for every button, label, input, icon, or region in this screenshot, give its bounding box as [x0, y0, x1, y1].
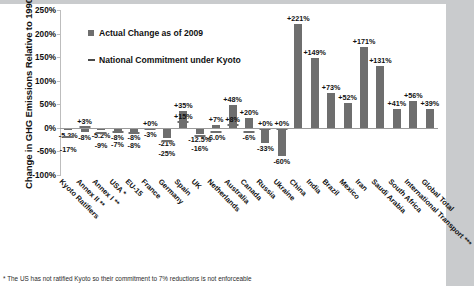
y-axis-tick-label: 0% — [16, 123, 56, 132]
x-axis-labels: Kyoto RatifiersAnnex II **Annex I **USA … — [60, 177, 438, 265]
bar-actual[interactable] — [245, 118, 253, 127]
bar-group[interactable]: +131% — [372, 10, 388, 175]
y-axis-tick-label: 50% — [16, 100, 56, 109]
bar-actual[interactable] — [261, 128, 269, 144]
bar-value-label: +48% — [223, 95, 242, 104]
y-axis-tick-mark — [57, 10, 61, 11]
bar-value-label: +52% — [338, 93, 357, 102]
commitment-marker[interactable] — [112, 131, 123, 133]
bar-group[interactable]: +39% — [422, 10, 438, 175]
commitment-value-label: +15% — [174, 112, 193, 121]
legend-label-actual: Actual Change as of 2009 — [99, 28, 203, 38]
commitment-marker[interactable] — [96, 132, 107, 134]
bar-actual[interactable] — [311, 58, 319, 128]
bar-group[interactable]: +52% — [339, 10, 355, 175]
commitment-value-label: -25% — [158, 149, 175, 158]
commitment-value-label: +0% — [258, 119, 273, 128]
bar-actual[interactable] — [294, 24, 302, 128]
bar-actual[interactable] — [409, 101, 417, 127]
commitment-value-label: +0% — [275, 119, 290, 128]
square-marker-icon — [88, 30, 94, 36]
bar-group[interactable]: +41% — [389, 10, 405, 175]
bar-value-label: -33% — [257, 144, 274, 153]
bar-group[interactable]: +149% — [307, 10, 323, 175]
y-axis-tick-label: -50% — [16, 147, 56, 156]
bar-actual[interactable] — [376, 66, 384, 128]
dash-marker-icon — [88, 59, 95, 61]
y-axis-tick-label: 200% — [16, 29, 56, 38]
bar-value-label: +73% — [322, 83, 341, 92]
zero-baseline — [60, 128, 438, 129]
commitment-value-label: -6.0% — [207, 133, 226, 142]
chart-legend: Actual Change as of 2009 National Commit… — [88, 28, 241, 82]
bar-group[interactable]: +73% — [323, 10, 339, 175]
bar-actual[interactable] — [426, 109, 434, 127]
bar-value-label: +35% — [174, 101, 193, 110]
bar-group[interactable]: +56% — [405, 10, 421, 175]
commitment-marker[interactable] — [178, 121, 189, 123]
y-axis-tick-label: -100% — [16, 171, 56, 180]
commitment-value-label: +8% — [225, 115, 240, 124]
commitment-value-label: -16% — [191, 144, 208, 153]
bar-value-label: +20% — [240, 108, 259, 117]
x-axis-tick-label: Brazil — [321, 177, 342, 198]
bar-actual[interactable] — [278, 128, 286, 156]
y-axis-tick-label: 100% — [16, 76, 56, 85]
bar-group[interactable]: +171% — [356, 10, 372, 175]
bar-actual[interactable] — [344, 103, 352, 128]
commitment-value-label: -6% — [243, 133, 256, 142]
legend-item-commitment: National Commitment under Kyoto — [88, 55, 241, 65]
bar-value-label: -8% — [78, 133, 91, 142]
y-axis-tick-mark — [57, 175, 61, 176]
bar-group[interactable]: -5.2%-17% — [60, 10, 76, 175]
bar-group[interactable]: +221% — [290, 10, 306, 175]
bar-value-label: +7% — [209, 115, 224, 124]
y-axis-tick-mark — [57, 57, 61, 58]
y-axis-tick-mark — [57, 34, 61, 35]
bar-actual[interactable] — [327, 93, 335, 127]
commitment-marker[interactable] — [128, 132, 139, 134]
legend-item-actual: Actual Change as of 2009 — [88, 28, 241, 38]
y-axis-tick-mark — [57, 104, 61, 105]
commitment-value-label: -8% — [128, 141, 141, 150]
commitment-value-label: -17% — [60, 145, 77, 154]
commitment-marker[interactable] — [194, 135, 205, 137]
commitment-marker[interactable] — [161, 140, 172, 142]
commitment-value-label: +0% — [143, 119, 158, 128]
bar-group[interactable]: -60%+0% — [274, 10, 290, 175]
commitment-value-label: +3% — [77, 117, 92, 126]
bar-group[interactable]: -33%+0% — [257, 10, 273, 175]
bar-value-label: -3% — [144, 130, 157, 139]
bar-group[interactable]: +20%-6% — [241, 10, 257, 175]
bar-actual[interactable] — [393, 109, 401, 128]
commitment-value-label: -9% — [95, 141, 108, 150]
y-axis-tick-mark — [57, 81, 61, 82]
legend-label-commitment: National Commitment under Kyoto — [99, 55, 241, 65]
y-axis-tick-label: 250% — [16, 6, 56, 15]
y-axis-tick-mark — [57, 151, 61, 152]
footnote-text: * The US has not ratified Kyoto so their… — [3, 275, 252, 282]
bar-value-label: +39% — [420, 99, 439, 108]
bar-value-label: -60% — [273, 157, 290, 166]
commitment-marker[interactable] — [63, 136, 74, 138]
bar-actual[interactable] — [360, 47, 368, 128]
commitment-marker[interactable] — [227, 124, 238, 126]
bar-actual[interactable] — [163, 128, 171, 138]
y-axis-tick-label: 150% — [16, 53, 56, 62]
commitment-value-label: -7% — [111, 140, 124, 149]
